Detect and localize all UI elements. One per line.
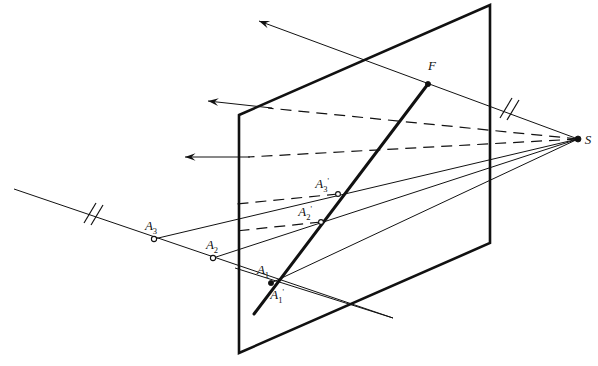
label-A1-prime-base: A xyxy=(269,287,278,302)
parallel-ray-group xyxy=(185,101,578,231)
ray-S-to-A2 xyxy=(213,139,578,258)
ray-S-through-F-extended xyxy=(259,21,578,139)
label-A1-sub: 1 xyxy=(265,270,269,280)
label-A3-base: A xyxy=(144,218,153,233)
point-A2 xyxy=(210,255,215,260)
label-A2: A2 xyxy=(205,237,218,255)
projection-diagram-svg: F S A3' A2' A1 A1' A2 A3 xyxy=(0,0,598,366)
point-S xyxy=(575,136,581,142)
label-A3-prime-base: A xyxy=(314,176,323,191)
label-A3-sub: 3 xyxy=(153,226,157,236)
label-A3-prime: A3' xyxy=(314,176,329,194)
ray-S-to-A3 xyxy=(154,139,578,239)
tick-marks-right xyxy=(500,98,519,120)
label-S-base: S xyxy=(585,132,592,147)
projection-ray-fan xyxy=(154,139,578,283)
label-A1: A1 xyxy=(256,262,269,280)
label-A2-prime-base: A xyxy=(297,204,306,219)
parallel-ray-upper-dashed xyxy=(268,108,578,139)
label-A1-prime-mark: ' xyxy=(282,288,284,297)
label-A1-base: A xyxy=(256,262,265,277)
label-A2-base: A xyxy=(205,237,214,252)
label-F: F xyxy=(427,58,437,73)
label-F-base: F xyxy=(427,58,437,73)
image-line-F-A1prime xyxy=(254,84,428,314)
label-A2-prime: A2' xyxy=(297,204,312,222)
parallel-ray-lower-dashed xyxy=(248,139,578,157)
geometry-figure: F S A3' A2' A1 A1' A2 A3 xyxy=(0,0,598,366)
point-A3-prime xyxy=(336,192,341,197)
label-group: F S A3' A2' A1 A1' A2 A3 xyxy=(144,58,592,305)
label-A3: A3 xyxy=(144,218,157,236)
label-A2-sub: 2 xyxy=(214,245,218,255)
label-S: S xyxy=(585,132,592,147)
point-A1-prime xyxy=(268,280,273,285)
ray-S-to-A1 xyxy=(271,139,578,283)
point-markers xyxy=(151,81,581,285)
point-F xyxy=(425,81,430,86)
ray-S-F-extension-line xyxy=(259,21,578,139)
label-A2-prime-mark: ' xyxy=(310,205,312,214)
point-A3 xyxy=(151,236,156,241)
label-A1-prime: A1' xyxy=(269,287,284,305)
object-line-group xyxy=(14,189,393,318)
object-line xyxy=(14,189,393,318)
image-line-group xyxy=(254,84,428,314)
label-A3-prime-mark: ' xyxy=(327,177,329,186)
point-A2-prime xyxy=(319,220,324,225)
